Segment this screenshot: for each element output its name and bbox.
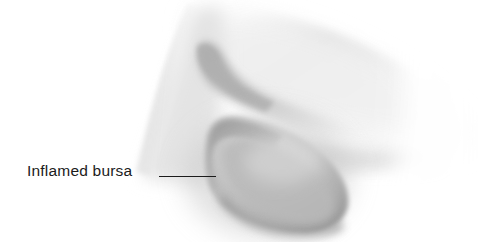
figure-root: Inflamed bursa — [0, 0, 478, 242]
region-inflamed-bursa-swelling — [184, 114, 352, 238]
anatomy-illustration — [0, 0, 478, 242]
